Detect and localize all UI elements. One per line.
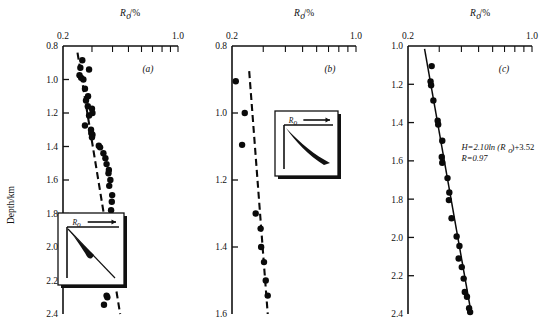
- y-tick-label: 1.0: [46, 75, 58, 85]
- equation-line-2: R=0.97: [460, 153, 488, 163]
- data-point: [453, 233, 459, 239]
- y-axis-label: Depth/km: [6, 185, 16, 224]
- data-point: [77, 65, 83, 71]
- x-axis-title-symbol: R: [293, 8, 300, 18]
- x-axis-title-symbol: R: [469, 8, 476, 18]
- data-point: [233, 78, 239, 84]
- y-tick-label: 1.4: [46, 142, 58, 152]
- trend-line: [425, 49, 472, 314]
- data-point: [107, 177, 113, 183]
- three-panel-depth-vs-ro-chart: Ro/%0.21.00.81.01.21.41.61.82.02.22.4(a)…: [0, 0, 556, 330]
- data-point: [82, 122, 88, 128]
- data-point: [446, 189, 452, 195]
- y-tick-label: 2.4: [46, 309, 58, 319]
- data-point: [101, 302, 107, 308]
- equation-line-1: H=2.10ln (R: [460, 142, 506, 152]
- x-axis-title-unit: /%: [480, 8, 491, 18]
- inset-schematic: Ro: [275, 111, 341, 179]
- y-tick-label: 1.6: [391, 156, 403, 166]
- data-point: [102, 155, 108, 161]
- x-tick-label: 0.2: [226, 31, 238, 41]
- data-point: [104, 294, 110, 300]
- data-point: [239, 142, 245, 148]
- data-point: [106, 183, 112, 189]
- data-point: [79, 57, 85, 63]
- y-tick-label: 1.6: [46, 175, 58, 185]
- equation-annotation: H=2.10ln (Ro)+3.52R=0.97: [460, 142, 534, 163]
- y-tick-label: 2.4: [391, 309, 403, 319]
- data-point: [252, 210, 258, 216]
- data-point: [82, 86, 88, 92]
- x-axis-title-symbol: R: [119, 8, 126, 18]
- data-point: [109, 199, 115, 205]
- data-point: [105, 170, 111, 176]
- data-point: [439, 138, 445, 144]
- x-tick-label: 1.0: [172, 31, 184, 41]
- data-point: [428, 63, 434, 69]
- data-point: [97, 144, 103, 150]
- figure-container: Ro/%0.21.00.81.01.21.41.61.82.02.22.4(a)…: [0, 0, 556, 330]
- data-point: [89, 134, 95, 140]
- y-tick-label: 1.0: [215, 108, 227, 118]
- y-tick-label: 1.4: [391, 118, 403, 128]
- x-tick-label: 0.2: [57, 31, 69, 41]
- data-point: [439, 154, 445, 160]
- data-points: [427, 63, 473, 315]
- data-point: [435, 121, 441, 127]
- data-point: [80, 76, 86, 82]
- data-point: [428, 82, 434, 88]
- y-tick-label: 1.6: [215, 309, 227, 319]
- panel-a: Ro/%0.21.00.81.01.21.41.61.82.02.22.4(a)…: [46, 8, 184, 319]
- y-tick-label: 1.2: [215, 175, 227, 185]
- data-point: [455, 255, 461, 261]
- x-axis-title-unit: /%: [130, 8, 141, 18]
- data-point: [459, 264, 465, 270]
- y-tick-label: 1.4: [215, 242, 227, 252]
- inset-label-subscript: o: [77, 220, 81, 229]
- y-tick-label: 0.8: [46, 41, 58, 51]
- data-point: [83, 97, 89, 103]
- data-point: [460, 275, 466, 281]
- y-tick-label: 1.0: [391, 41, 403, 51]
- inset-schematic: Ro: [58, 213, 127, 288]
- data-point: [109, 192, 115, 198]
- x-tick-label: 1.0: [350, 31, 362, 41]
- x-tick-label: 0.2: [402, 31, 414, 41]
- panel-label: (a): [142, 64, 153, 75]
- panel-label: (c): [499, 64, 510, 75]
- y-tick-label: 1.8: [46, 209, 58, 219]
- equation-line-1-end: )+3.52: [512, 142, 535, 152]
- data-point: [103, 161, 109, 167]
- data-points: [233, 78, 271, 299]
- data-point: [467, 309, 473, 315]
- data-point: [448, 215, 454, 221]
- panel-c: Ro/%0.21.01.01.21.41.61.82.02.22.4(c)H=2…: [391, 8, 538, 319]
- y-tick-label: 1.8: [391, 195, 403, 205]
- data-point: [258, 244, 264, 250]
- data-point: [439, 160, 445, 166]
- y-tick-label: 2.2: [391, 271, 403, 281]
- y-tick-label: 1.2: [391, 80, 403, 90]
- x-axis-title-unit: /%: [304, 8, 315, 18]
- data-point: [263, 277, 269, 283]
- data-point: [86, 112, 92, 118]
- y-tick-label: 2.2: [46, 276, 58, 286]
- y-tick-label: 1.2: [46, 108, 58, 118]
- data-point: [464, 294, 470, 300]
- x-axis-title: Ro/%: [119, 8, 140, 21]
- x-axis-title: Ro/%: [293, 8, 314, 21]
- panel-label: (b): [324, 64, 335, 75]
- data-point: [430, 97, 436, 103]
- y-tick-label: 0.8: [215, 41, 227, 51]
- data-point: [444, 175, 450, 181]
- inset-box: [58, 213, 124, 285]
- data-point: [242, 110, 248, 116]
- data-point: [261, 259, 267, 265]
- y-tick-label: 2.0: [46, 242, 58, 252]
- data-point: [456, 243, 462, 249]
- panel-b: Ro/%0.21.00.81.01.21.41.6(b)Ro: [215, 8, 362, 319]
- data-point: [265, 292, 271, 298]
- x-axis-title: Ro/%: [469, 8, 490, 21]
- data-point: [446, 197, 452, 203]
- inset-label-subscript: o: [293, 118, 297, 127]
